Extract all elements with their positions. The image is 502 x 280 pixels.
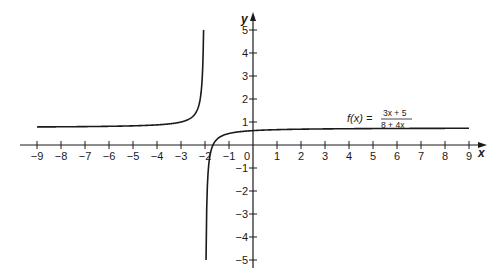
y-tick-label: 4 xyxy=(242,47,248,59)
x-tick-label: 2 xyxy=(298,150,304,162)
function-numerator: 3x + 5 xyxy=(383,108,407,118)
x-tick-label: −1 xyxy=(223,150,236,162)
curve-left-branch xyxy=(37,30,204,127)
y-tick-label: 1 xyxy=(242,116,248,128)
x-tick-label: 1 xyxy=(274,150,280,162)
x-tick-label: 3 xyxy=(322,150,328,162)
y-tick-label: 2 xyxy=(242,93,248,105)
y-axis-arrow-icon xyxy=(250,12,256,21)
x-tick-label: 5 xyxy=(370,150,376,162)
x-axis-label: x xyxy=(477,146,486,160)
function-denominator: 8 + 4x xyxy=(381,120,405,130)
x-tick-label: −4 xyxy=(151,150,164,162)
origin-label: 0 xyxy=(244,150,250,162)
y-tick-label: −4 xyxy=(235,231,248,243)
x-tick-label: 6 xyxy=(394,150,400,162)
function-plot: −9−8−7−6−5−4−3−2−1123456789−5−4−3−2−1123… xyxy=(0,0,502,280)
axes xyxy=(20,12,487,268)
x-tick-label: −8 xyxy=(55,150,68,162)
x-tick-label: −7 xyxy=(79,150,92,162)
x-tick-label: 9 xyxy=(466,150,472,162)
function-lhs: f(x) = xyxy=(347,112,373,124)
y-tick-label: −5 xyxy=(235,254,248,266)
x-tick-label: 8 xyxy=(442,150,448,162)
y-tick-label: −3 xyxy=(235,208,248,220)
x-tick-label: −3 xyxy=(175,150,188,162)
x-tick-label: −6 xyxy=(103,150,116,162)
y-tick-label: −1 xyxy=(235,162,248,174)
x-tick-label: 4 xyxy=(346,150,352,162)
x-tick-label: 7 xyxy=(418,150,424,162)
y-tick-label: 3 xyxy=(242,70,248,82)
y-axis-label: y xyxy=(240,12,249,26)
y-tick-label: −2 xyxy=(235,185,248,197)
function-annotation: f(x) = 3x + 5 8 + 4x xyxy=(347,108,412,130)
x-tick-label: −9 xyxy=(31,150,44,162)
x-tick-label: −5 xyxy=(127,150,140,162)
